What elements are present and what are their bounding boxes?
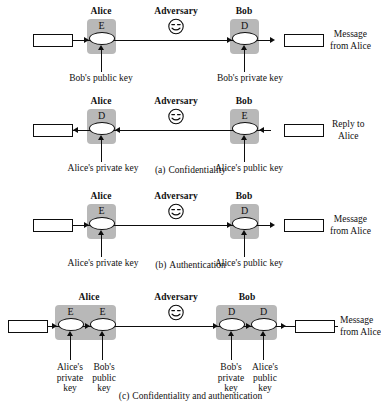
- output-note: Message from Alice: [340, 315, 381, 338]
- alice-key-arrowhead-1: [67, 331, 73, 336]
- role-label-alice: Alice: [78, 292, 99, 302]
- caption-text: Authentication: [169, 260, 225, 270]
- role-label-adversary: Adversary: [154, 6, 198, 16]
- bob-key-line-2: [263, 335, 264, 360]
- plaintext-message-box: [33, 34, 73, 47]
- role-label-adversary: Adversary: [154, 292, 198, 302]
- output-message-box: [284, 34, 324, 47]
- alice-encrypt-node: E: [89, 21, 115, 45]
- caption-text: Confidentiality: [169, 165, 227, 175]
- role-label-bob: Bob: [236, 191, 253, 201]
- alice-key-line-2: [102, 335, 103, 360]
- decrypt-letter: D: [219, 307, 245, 317]
- encrypt-oval: [89, 217, 115, 230]
- alice-key-arrowhead-2: [99, 331, 105, 336]
- decrypt-letter: D: [232, 21, 258, 31]
- alice-key-line-1: [70, 335, 71, 360]
- encrypt-letter: E: [232, 111, 258, 121]
- key-label-line2: private: [57, 373, 83, 384]
- key-label-line2: public: [252, 373, 278, 384]
- output-message-box: [284, 219, 324, 232]
- bob-key-line: [244, 139, 245, 162]
- role-label-bob: Bob: [236, 96, 253, 106]
- decrypt-oval: [232, 217, 258, 230]
- encrypt-letter: E: [58, 307, 84, 317]
- alice-key-line: [101, 49, 102, 72]
- output-note: Message from Alice: [330, 214, 371, 237]
- output-note-line1: Message: [330, 214, 371, 226]
- key-label-line1: Alice's: [57, 362, 83, 373]
- output-note-line2: from Alice: [330, 41, 371, 53]
- bob-key-arrowhead: [241, 135, 247, 140]
- bob-key-arrowhead-2: [260, 331, 266, 336]
- key-label-line1: Bob's: [218, 362, 244, 373]
- output-note-line1: Message: [340, 315, 381, 327]
- adversary-face-svg: [168, 203, 185, 220]
- bob-key-line-1: [231, 335, 232, 360]
- alice-encrypt-node-1: E: [58, 307, 84, 331]
- key-label-line1: Alice's: [252, 362, 278, 373]
- adversary-icon: [168, 108, 185, 129]
- arrow-into-output-box: [73, 127, 78, 133]
- encrypt-oval: [58, 318, 84, 331]
- bob-encrypt-node: E: [232, 111, 258, 135]
- bob-key-arrowhead: [241, 230, 247, 235]
- bob-decrypt-node-1: D: [219, 307, 245, 331]
- bob-key-line: [244, 49, 245, 72]
- adversary-face-svg: [168, 304, 185, 321]
- adversary-icon: [168, 18, 185, 39]
- role-label-bob: Bob: [236, 6, 253, 16]
- output-note-line2: from Alice: [330, 226, 371, 238]
- decrypt-letter: D: [89, 111, 115, 121]
- alice-encrypt-node-2: E: [90, 307, 116, 331]
- decrypt-oval: [89, 122, 115, 135]
- encrypt-oval: [90, 318, 116, 331]
- arrow-into-bob-decrypt-1: [213, 323, 218, 329]
- bob-key-label-2: Alice's public key: [252, 362, 278, 394]
- role-label-bob: Bob: [239, 292, 256, 302]
- role-label-alice: Alice: [90, 191, 111, 201]
- output-note-line2: from Alice: [340, 327, 381, 339]
- alice-decrypt-node: D: [89, 111, 115, 135]
- key-label-line2: public: [92, 373, 116, 384]
- plaintext-message-box: [33, 219, 73, 232]
- panel-confidentiality-and-authentication: Alice Adversary Bob E E D D: [0, 285, 381, 407]
- alice-key-line: [101, 234, 102, 257]
- arrow-into-output-box: [281, 323, 286, 329]
- decrypt-oval: [232, 32, 258, 45]
- bob-key-label: Bob's private key: [217, 73, 283, 84]
- panel-caption: (c)Confidentiality and authentication: [0, 391, 381, 401]
- adversary-icon: [168, 304, 185, 325]
- panel-caption: (a)Confidentiality: [0, 165, 381, 175]
- output-note-line1: Reply to: [332, 119, 364, 131]
- bob-key-line: [244, 234, 245, 257]
- alice-key-label: Bob's public key: [69, 73, 132, 84]
- bob-key-arrowhead: [241, 45, 247, 50]
- alice-key-line: [101, 139, 102, 162]
- role-label-adversary: Adversary: [154, 96, 198, 106]
- alice-key-arrowhead: [98, 230, 104, 235]
- arrow-into-bob-encrypt: [259, 127, 264, 133]
- encrypt-letter: E: [89, 21, 115, 31]
- adversary-face-svg: [168, 108, 185, 125]
- plaintext-message-box: [8, 320, 48, 333]
- role-label-alice: Alice: [90, 96, 111, 106]
- encrypt-oval: [232, 122, 258, 135]
- alice-key-arrowhead: [98, 135, 104, 140]
- decrypt-oval: [251, 318, 277, 331]
- bob-decrypt-node: D: [232, 206, 258, 230]
- output-message-box: [295, 320, 335, 333]
- decrypt-letter: D: [232, 206, 258, 216]
- caption-text: Confidentiality and authentication: [132, 391, 262, 401]
- panel-authentication: Alice Adversary Bob E D Alice's private …: [0, 185, 381, 275]
- bob-key-label-1: Bob's private key: [218, 362, 244, 394]
- arrow-into-output-box: [270, 37, 275, 43]
- panel-confidentiality: Alice Adversary Bob E D Bob's public key…: [0, 0, 381, 178]
- encrypt-letter: E: [90, 307, 116, 317]
- key-label-line1: Bob's: [92, 362, 116, 373]
- alice-key-label-1: Alice's private key: [57, 362, 83, 394]
- alice-key-label-2: Bob's public key: [92, 362, 116, 394]
- caption-letter: (b): [155, 260, 166, 270]
- output-note: Reply to Alice: [332, 119, 364, 142]
- key-label-line2: private: [218, 373, 244, 384]
